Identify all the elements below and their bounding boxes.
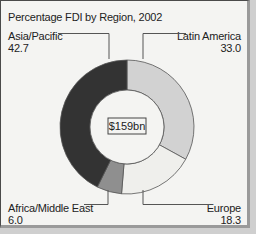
leader-europe (143, 190, 210, 205)
donut-chart: $159bn (0, 0, 256, 234)
leader-africa-middle-east (84, 190, 108, 205)
center-label: $159bn (109, 120, 146, 132)
leader-latin-america (143, 34, 186, 60)
leader-asia-pacific (58, 34, 109, 60)
